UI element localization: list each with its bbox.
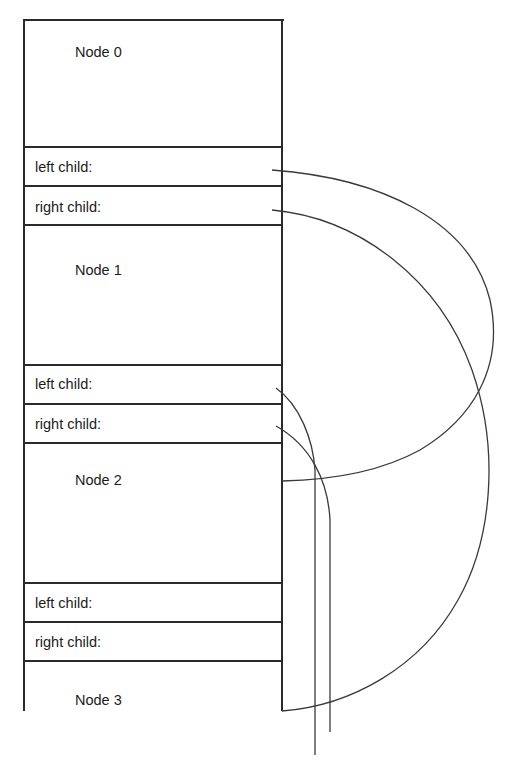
pointer-wires [0, 0, 509, 767]
edge-node0-left-to-node2 [272, 170, 494, 481]
edge-node1-left-down [276, 388, 315, 755]
edge-node0-right-to-node3 [272, 210, 489, 711]
edge-node1-right-down [276, 426, 330, 732]
memory-diagram: Node 0 left child: right child: Node 1 l… [0, 0, 509, 767]
